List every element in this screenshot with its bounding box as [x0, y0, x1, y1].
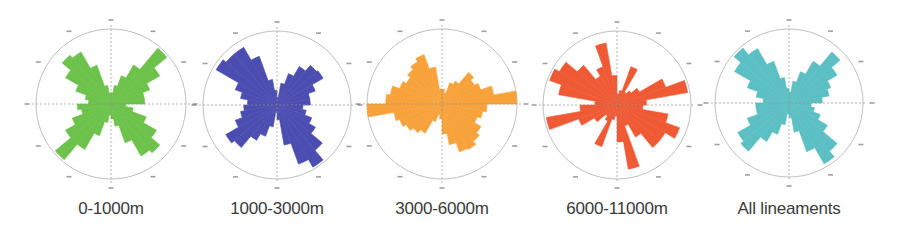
degree-tick-label: [615, 187, 620, 189]
degree-tick-label: [715, 144, 720, 146]
rose-panel-0-1000m: 0-1000m: [21, 0, 201, 231]
degree-tick-label: [36, 61, 41, 63]
degree-tick-label: [109, 187, 114, 189]
degree-tick-label: [440, 19, 445, 21]
degree-tick-label: [745, 174, 750, 176]
rose-label: 6000-11000m: [527, 199, 707, 219]
degree-tick-label: [704, 102, 709, 104]
degree-tick-label: [686, 63, 691, 65]
degree-tick-label: [367, 61, 372, 63]
rose-diagram-all-lineaments: [699, 0, 879, 190]
degree-tick-label: [151, 176, 156, 178]
degree-tick-label: [109, 19, 114, 21]
degree-tick-label: [440, 187, 445, 189]
rose-label: 3000-6000m: [352, 199, 532, 219]
degree-tick-label: [512, 145, 517, 147]
degree-tick-label: [398, 31, 403, 33]
degree-tick-label: [67, 176, 72, 178]
degree-tick-label: [787, 185, 792, 187]
degree-tick-label: [25, 103, 30, 105]
degree-tick-label: [151, 31, 156, 33]
degree-tick-label: [858, 144, 863, 146]
rose-label: 1000-3000m: [187, 199, 367, 219]
degree-tick-label: [346, 63, 351, 65]
degree-tick-label: [203, 146, 208, 148]
degree-tick-label: [828, 30, 833, 32]
degree-tick-label: [870, 102, 875, 104]
rose-diagram-6000-11000m: [527, 0, 707, 190]
degree-tick-label: [656, 176, 661, 178]
degree-tick-label: [482, 176, 487, 178]
degree-tick-label: [745, 30, 750, 32]
rose-panel-6000-11000m: 6000-11000m: [527, 0, 707, 231]
degree-tick-label: [367, 145, 372, 147]
degree-tick-label: [275, 187, 280, 189]
rose-panel-1000-3000m: 1000-3000m: [187, 0, 367, 231]
degree-tick-label: [482, 31, 487, 33]
degree-tick-label: [828, 174, 833, 176]
degree-tick-label: [67, 31, 72, 33]
degree-tick-label: [316, 176, 321, 178]
rose-label: All lineaments: [699, 199, 879, 219]
degree-tick-label: [532, 104, 537, 106]
rose-panel-3000-6000m: 3000-6000m: [352, 0, 532, 231]
rose-diagram-1000-3000m: [187, 0, 367, 190]
degree-tick-label: [543, 146, 548, 148]
degree-tick-label: [398, 176, 403, 178]
rose-label: 0-1000m: [21, 199, 201, 219]
degree-tick-label: [233, 32, 238, 34]
degree-tick-label: [656, 32, 661, 34]
degree-tick-label: [615, 21, 620, 23]
degree-tick-label: [543, 63, 548, 65]
degree-tick-label: [192, 104, 197, 106]
degree-tick-label: [715, 61, 720, 63]
degree-tick-label: [316, 32, 321, 34]
degree-tick-label: [181, 61, 186, 63]
degree-tick-label: [787, 19, 792, 21]
degree-tick-label: [181, 145, 186, 147]
degree-tick-label: [356, 103, 361, 105]
rose-panel-all-lineaments: All lineaments: [699, 0, 879, 231]
rose-diagram-3000-6000m: [352, 0, 532, 190]
degree-tick-label: [346, 146, 351, 148]
degree-tick-label: [686, 146, 691, 148]
degree-tick-label: [275, 21, 280, 23]
degree-tick-label: [573, 32, 578, 34]
rose-diagram-0-1000m: [21, 0, 201, 190]
degree-tick-label: [36, 145, 41, 147]
degree-tick-label: [573, 176, 578, 178]
degree-tick-label: [858, 61, 863, 63]
degree-tick-label: [233, 176, 238, 178]
degree-tick-label: [203, 63, 208, 65]
degree-tick-label: [512, 61, 517, 63]
rose-diagram-figure: 0-1000m 1000-3000m 3000-6000m 6000-11000…: [0, 0, 901, 231]
